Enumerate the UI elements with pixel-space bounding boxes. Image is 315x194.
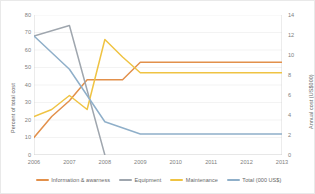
x-axis-tick-label: 2013 <box>267 159 297 165</box>
y-axis-right-tick-label: 12 <box>288 32 304 38</box>
legend-swatch-icon <box>119 179 132 181</box>
legend-label: Information & awarness <box>51 177 110 183</box>
y-axis-left-tick-label: 0 <box>15 152 31 158</box>
y-axis-left-tick-label: 60 <box>15 47 31 53</box>
chart-legend: Information & awarnessEquipmentMaintenan… <box>1 177 315 183</box>
line-chart: Percent of total cost Annual cost (US$00… <box>0 0 315 194</box>
y-axis-left-tick-label: 80 <box>15 12 31 18</box>
x-axis-tick-label: 2011 <box>196 159 226 165</box>
y-axis-right-tick-label: 8 <box>288 72 304 78</box>
legend-swatch-icon <box>170 179 183 181</box>
series-line <box>34 62 282 137</box>
y-axis-left-tick-label: 30 <box>15 99 31 105</box>
x-axis-tick-label: 2010 <box>161 159 191 165</box>
y-axis-left-tick-label: 40 <box>15 82 31 88</box>
plot-area <box>34 15 282 155</box>
y-axis-right-title: Annual cost (US$000) <box>308 74 314 129</box>
y-axis-left-tick-label: 10 <box>15 134 31 140</box>
legend-item[interactable]: Equipment <box>119 177 161 183</box>
y-axis-right-tick-label: 4 <box>288 112 304 118</box>
x-axis-tick-label: 2012 <box>232 159 262 165</box>
y-axis-right-tick-label: 2 <box>288 132 304 138</box>
y-axis-left-title: Percent of total cost <box>10 83 16 133</box>
y-axis-right-tick-label: 0 <box>288 152 304 158</box>
y-axis-right-tick-label: 14 <box>288 12 304 18</box>
series-line <box>34 40 282 117</box>
legend-label: Equipment <box>135 177 162 183</box>
x-axis-tick-label: 2006 <box>19 159 49 165</box>
y-axis-left-tick-label: 70 <box>15 29 31 35</box>
legend-label: Maintenance <box>186 177 218 183</box>
y-axis-left-tick-label: 20 <box>15 117 31 123</box>
legend-item[interactable]: Total (000 US$) <box>227 177 281 183</box>
series-line <box>34 26 105 156</box>
x-axis-tick-label: 2007 <box>54 159 84 165</box>
legend-item[interactable]: Information & awarness <box>36 177 110 183</box>
x-axis-tick-label: 2009 <box>125 159 155 165</box>
legend-swatch-icon <box>227 179 240 181</box>
plot-svg <box>34 15 282 155</box>
legend-swatch-icon <box>36 179 49 181</box>
y-axis-left-tick-label: 50 <box>15 64 31 70</box>
y-axis-right-tick-label: 10 <box>288 52 304 58</box>
y-axis-right-tick-label: 6 <box>288 92 304 98</box>
legend-label: Total (000 US$) <box>242 177 281 183</box>
legend-item[interactable]: Maintenance <box>170 177 218 183</box>
x-axis-tick-label: 2008 <box>90 159 120 165</box>
